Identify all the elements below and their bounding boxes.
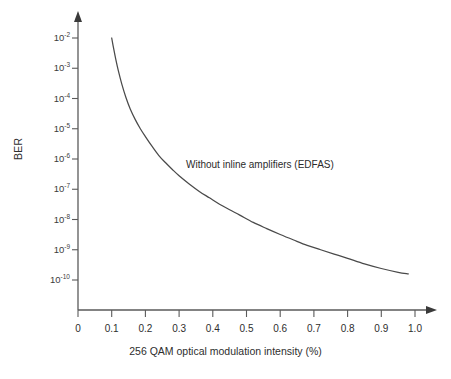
x-tick-label: 1.0 [408, 324, 422, 334]
curve-annotation-label: Without inline amplifiers (EDFAS) [186, 159, 334, 170]
y-axis-arrow-icon [74, 11, 82, 22]
chart-figure: 10-210-310-410-510-610-710-810-910-10 00… [0, 0, 451, 379]
y-tick-label: 10-10 [30, 275, 70, 285]
y-axis-title: BER [12, 138, 24, 160]
y-tick-label: 10-6 [30, 154, 70, 164]
y-axis-tick-marks [72, 38, 78, 280]
x-tick-label: 0.6 [273, 324, 287, 334]
y-tick-label: 10-4 [30, 94, 70, 104]
y-tick-label: 10-3 [30, 64, 70, 74]
x-tick-label: 0.3 [172, 324, 186, 334]
x-tick-label: 0 [75, 324, 81, 334]
x-tick-label: 0.4 [206, 324, 220, 334]
x-tick-label: 0.7 [307, 324, 321, 334]
x-tick-label: 0.2 [138, 324, 152, 334]
x-tick-label: 0.8 [341, 324, 355, 334]
x-axis-tick-marks [78, 310, 415, 317]
x-tick-label: 0.9 [374, 324, 388, 334]
y-tick-label: 10-2 [30, 33, 70, 43]
y-tick-label: 10-9 [30, 245, 70, 255]
x-tick-label: 0.5 [240, 324, 254, 334]
y-tick-label: 10-8 [30, 215, 70, 225]
x-axis-title: 256 QAM optical modulation intensity (%) [0, 345, 451, 357]
y-tick-label: 10-5 [30, 124, 70, 134]
x-tick-label: 0.1 [105, 324, 119, 334]
x-axis-arrow-icon [426, 306, 437, 314]
ber-curve [112, 38, 409, 274]
y-tick-label: 10-7 [30, 185, 70, 195]
